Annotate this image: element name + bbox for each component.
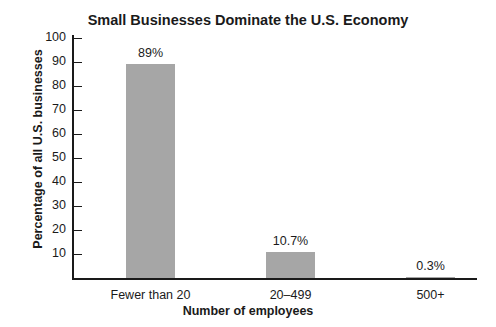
x-category-label: Fewer than 20 — [81, 288, 221, 302]
y-tick-label: 80 — [30, 78, 66, 92]
bar — [406, 277, 455, 278]
y-tick-label: 40 — [30, 174, 66, 188]
y-tick — [72, 134, 82, 136]
y-tick-label: 10 — [30, 246, 66, 260]
y-tick-label: 30 — [30, 198, 66, 212]
bar-value-label: 89% — [111, 46, 191, 60]
y-tick — [72, 254, 82, 256]
y-tick — [72, 182, 82, 184]
y-tick — [72, 38, 82, 40]
y-tick-label: 100 — [30, 30, 66, 44]
x-category-label: 500+ — [361, 288, 496, 302]
x-axis-label: Number of employees — [0, 304, 496, 318]
y-tick-label: 50 — [30, 150, 66, 164]
chart-title: Small Businesses Dominate the U.S. Econo… — [0, 12, 496, 28]
y-tick-label: 90 — [30, 54, 66, 68]
bar-value-label: 10.7% — [251, 234, 331, 248]
bar — [126, 64, 175, 278]
bar — [266, 252, 315, 278]
y-tick — [72, 62, 82, 64]
y-tick-label: 20 — [30, 222, 66, 236]
bar-value-label: 0.3% — [391, 259, 471, 273]
y-tick-label: 70 — [30, 102, 66, 116]
y-tick — [72, 230, 82, 232]
y-tick-label: 60 — [30, 126, 66, 140]
y-tick — [72, 110, 82, 112]
y-tick — [72, 86, 82, 88]
x-category-label: 20–499 — [221, 288, 361, 302]
y-tick — [72, 206, 82, 208]
y-tick — [72, 158, 82, 160]
